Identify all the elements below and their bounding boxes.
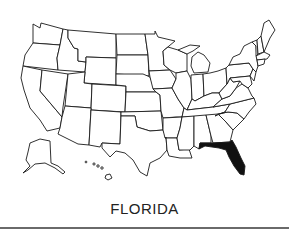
state-washington bbox=[33, 23, 63, 45]
state-iowa bbox=[149, 70, 176, 89]
state-name-label: FLORIDA bbox=[0, 200, 289, 217]
state-florida bbox=[199, 140, 245, 175]
state-kansas bbox=[125, 92, 161, 112]
state-arizona bbox=[58, 106, 91, 145]
us-map-svg bbox=[0, 0, 289, 200]
state-hawaii bbox=[85, 161, 112, 180]
state-north-dakota bbox=[116, 34, 148, 55]
state-connecticut bbox=[257, 59, 265, 66]
state-new-mexico bbox=[89, 110, 121, 147]
us-map bbox=[0, 0, 289, 200]
state-wyoming bbox=[84, 57, 116, 85]
state-maine bbox=[261, 20, 275, 52]
state-south-dakota bbox=[116, 55, 149, 76]
state-alaska bbox=[23, 139, 65, 174]
state-oregon bbox=[23, 43, 60, 70]
bottom-divider bbox=[0, 227, 289, 229]
state-colorado bbox=[91, 84, 126, 112]
